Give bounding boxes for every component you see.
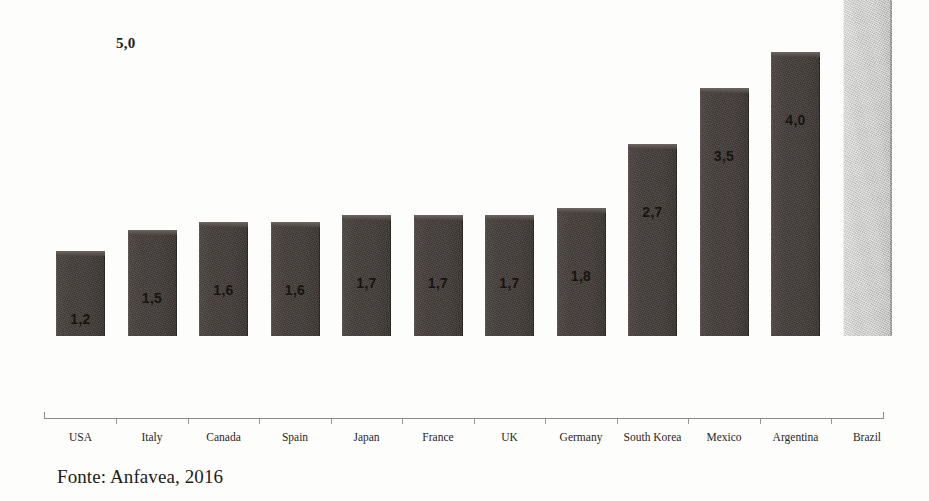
bar-argentina: [771, 52, 820, 336]
value-label-france: 1,7: [403, 275, 473, 291]
x-axis-tick: [402, 419, 403, 424]
value-label-japan: 1,7: [332, 275, 402, 291]
x-axis-tick: [116, 419, 117, 424]
bar-italy: [128, 230, 177, 337]
value-label-usa: 1,2: [46, 311, 116, 327]
bar-spain: [271, 222, 320, 336]
value-label-germany: 1,8: [546, 268, 616, 284]
x-axis-tick: [331, 419, 332, 424]
bar-south-korea: [628, 144, 677, 336]
x-axis-end-cap: [883, 412, 884, 419]
x-axis-tick: [259, 419, 260, 424]
x-axis-tick: [474, 419, 475, 424]
source-caption: Fonte: Anfavea, 2016: [57, 466, 223, 488]
value-label-mexico: 3,5: [689, 148, 759, 164]
value-label-argentina: 4,0: [761, 112, 831, 128]
x-axis-tick: [617, 419, 618, 424]
chart-canvas: 5,0 USAItalyCanadaSpainJapanFranceUKGerm…: [0, 0, 929, 501]
x-axis-tick: [760, 419, 761, 424]
value-label-uk: 1,7: [475, 275, 545, 291]
value-label-canada: 1,6: [189, 282, 259, 298]
x-axis-tick: [831, 419, 832, 424]
value-label-south-korea: 2,7: [618, 204, 688, 220]
value-label-italy: 1,5: [117, 290, 187, 306]
bar-mexico: [700, 88, 749, 337]
x-axis-tick: [545, 419, 546, 424]
bar-brazil: [843, 0, 892, 336]
x-axis-line: [44, 418, 884, 419]
x-axis-start-cap: [44, 412, 45, 419]
bar-canada: [199, 222, 248, 336]
value-label-spain: 1,6: [260, 282, 330, 298]
plot-area: USAItalyCanadaSpainJapanFranceUKGermanyS…: [0, 0, 929, 419]
x-axis-tick: [188, 419, 189, 424]
x-axis-tick: [688, 419, 689, 424]
category-label-brazil: Brazil: [817, 431, 917, 443]
